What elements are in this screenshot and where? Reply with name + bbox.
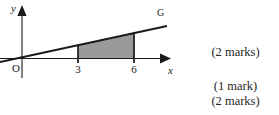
origin-label: O xyxy=(12,62,20,74)
tick-label-3: 3 xyxy=(75,63,81,75)
marks-line-3: (2 marks) xyxy=(192,94,279,108)
marks-line-2: (1 mark) xyxy=(192,79,279,93)
marks-line-1: (2 marks) xyxy=(192,45,279,59)
line-g-label: G xyxy=(157,7,164,18)
graph-figure: y x O 3 6 G xyxy=(0,0,190,115)
marks-column: (2 marks) (1 mark) (2 marks) xyxy=(192,0,279,115)
x-axis-label: x xyxy=(167,64,173,76)
x-axis-arrowhead-icon xyxy=(160,54,171,64)
shaded-region-polygon xyxy=(78,33,134,59)
coordinate-graph: y x O 3 6 G xyxy=(0,0,190,115)
y-axis-arrowhead-icon xyxy=(17,5,26,16)
tick-label-6: 6 xyxy=(131,63,137,75)
y-axis-label: y xyxy=(10,2,16,14)
